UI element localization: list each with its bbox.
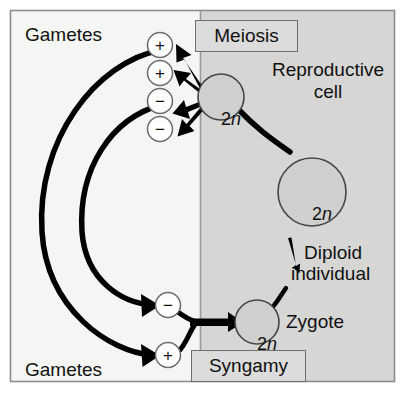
ploidy-number: 2 <box>257 334 267 354</box>
left-panel <box>11 11 201 382</box>
gametes-bottom-label: Gametes <box>25 360 102 381</box>
gamete-sign-plus-2: + <box>148 65 172 82</box>
diploid-individual-label-line2: individual <box>291 264 370 285</box>
gamete-sign-minus-2: − <box>148 121 172 138</box>
ploidy-number: 2 <box>221 109 231 129</box>
reproductive-cell-label-line1: Reproductive <box>258 60 398 81</box>
gamete-sign-plus-1: + <box>148 37 172 54</box>
zygote-ploidy: 2n <box>232 313 282 376</box>
reproductive-cell-ploidy: 2n <box>196 88 246 151</box>
gamete-sign-minus-1: − <box>148 93 172 110</box>
gametes-top-label: Gametes <box>25 25 102 46</box>
zygote-label: Zygote <box>286 312 344 333</box>
ploidy-n: n <box>322 204 332 224</box>
ploidy-number: 2 <box>312 204 322 224</box>
diploid-individual-label-line1: Diploid <box>304 243 362 264</box>
diploid-individual-ploidy: 2n <box>287 183 337 246</box>
gamete-sign-minus-fusing: − <box>156 297 180 314</box>
reproductive-cell-label-line2: cell <box>258 82 398 103</box>
ploidy-n: n <box>231 109 241 129</box>
meiosis-box: Meiosis <box>195 20 298 52</box>
life-cycle-diagram: Gametes Gametes Reproductive cell Diploi… <box>0 0 405 408</box>
meiosis-box-label: Meiosis <box>214 25 278 46</box>
gamete-sign-plus-fusing: + <box>156 347 180 364</box>
ploidy-n: n <box>267 334 277 354</box>
